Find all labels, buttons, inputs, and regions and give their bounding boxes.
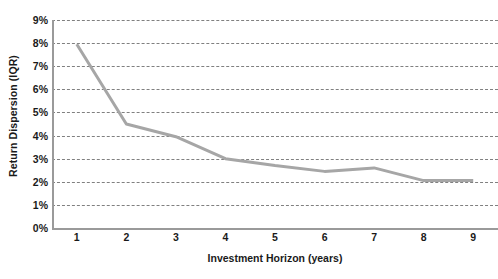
- x-tick-label: 3: [156, 232, 196, 244]
- x-tick-label: 8: [404, 232, 444, 244]
- y-tick-label: 3%: [14, 153, 48, 164]
- y-tick-label: 6%: [14, 84, 48, 95]
- x-tick-label: 7: [354, 232, 394, 244]
- y-tick-label: 5%: [14, 107, 48, 118]
- chart-container: Return Dispersion (IQR) 0%1%2%3%4%5%6%7%…: [0, 0, 498, 279]
- series-line-return-dispersion: [77, 44, 473, 180]
- x-axis-tick-labels: 123456789: [52, 232, 498, 248]
- y-tick-label: 1%: [14, 200, 48, 211]
- x-tick-label: 9: [453, 232, 493, 244]
- x-tick-label: 5: [255, 232, 295, 244]
- y-tick-label: 0%: [14, 223, 48, 234]
- y-tick-label: 7%: [14, 61, 48, 72]
- y-axis-tick-labels: 0%1%2%3%4%5%6%7%8%9%: [14, 0, 48, 232]
- series-plot: [52, 20, 498, 228]
- x-axis-line: [52, 228, 498, 230]
- y-tick-label: 9%: [14, 15, 48, 26]
- x-axis-title-text: Investment Horizon (years): [208, 252, 343, 264]
- x-axis-title: Investment Horizon (years): [52, 252, 498, 264]
- y-tick-label: 4%: [14, 130, 48, 141]
- x-tick-label: 1: [57, 232, 97, 244]
- plot-area: [52, 20, 498, 228]
- x-tick-label: 2: [106, 232, 146, 244]
- x-tick-label: 4: [205, 232, 245, 244]
- y-tick-label: 8%: [14, 38, 48, 49]
- y-tick-label: 2%: [14, 177, 48, 188]
- x-tick-label: 6: [305, 232, 345, 244]
